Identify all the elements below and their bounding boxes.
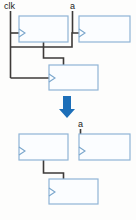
diagram-canvas: clk a — [0, 0, 136, 220]
signal-label-clk: clk — [4, 1, 15, 11]
wire-ff1b-out-to-ff3b — [44, 160, 64, 179]
down-arrow-icon — [59, 96, 75, 118]
wire-ff1-out-to-ff3 — [44, 42, 64, 65]
block-ff1[interactable] — [19, 16, 68, 42]
transformation-arrow — [59, 96, 75, 118]
block-ff3[interactable] — [49, 65, 98, 90]
bottom-diagram: a — [19, 119, 130, 204]
top-diagram: clk a — [4, 1, 130, 90]
block-ff1b[interactable] — [19, 134, 68, 160]
block-ff2b[interactable] — [79, 134, 130, 160]
signal-label-a-bottom: a — [78, 119, 83, 129]
block-ff2[interactable] — [79, 16, 130, 42]
block-ff3b[interactable] — [49, 179, 98, 204]
signal-label-a-top: a — [70, 1, 75, 11]
